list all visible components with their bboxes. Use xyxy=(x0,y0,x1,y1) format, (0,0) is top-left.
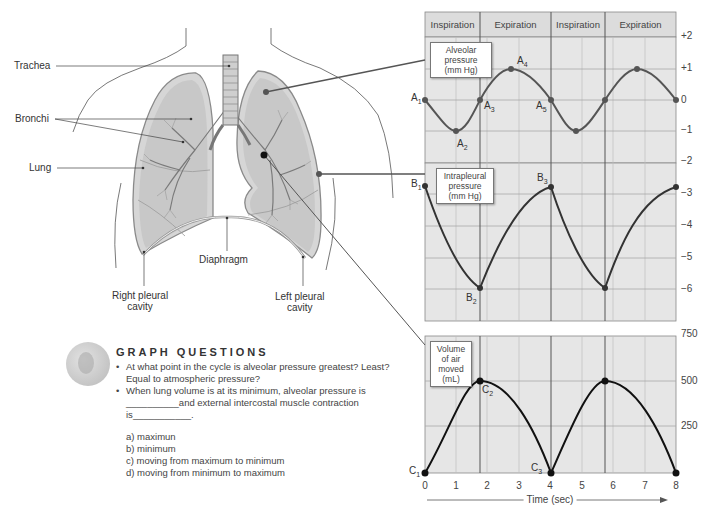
volume-label-line3: moved xyxy=(434,364,468,374)
connector-lines xyxy=(264,60,425,345)
ytick-alveolar-minus1: −1 xyxy=(681,124,692,135)
ytick-volume-750: 750 xyxy=(681,328,698,339)
intrapleural-label-line2: pressure xyxy=(440,181,490,191)
ytick-intrapleural-minus6: −6 xyxy=(681,283,692,294)
xtick-3: 3 xyxy=(512,480,526,491)
ytick-alveolar-0: 0 xyxy=(681,94,687,105)
answer-c: c) moving from maximum to minimum xyxy=(126,455,416,467)
intrapleural-label-line3: (mm Hg) xyxy=(440,191,490,201)
point-label-a3: A3 xyxy=(484,100,495,113)
graph-questions-body: At what point in the cycle is alveolar p… xyxy=(116,361,416,479)
point-label-a5: A5 xyxy=(536,100,547,113)
ytick-intrapleural-minus4: −4 xyxy=(681,219,692,230)
blank-2: ___________ xyxy=(133,409,191,420)
graph-questions-title: GRAPH QUESTIONS xyxy=(116,346,269,358)
alveolar-label-line3: (mm Hg) xyxy=(434,65,488,75)
alveolar-label-line2: pressure xyxy=(434,55,488,65)
answer-a: a) maximun xyxy=(126,431,416,443)
answer-b: b) minimum xyxy=(126,443,416,455)
point-label-a2: A2 xyxy=(457,138,468,151)
x-axis-label: Time (sec) xyxy=(524,494,577,505)
point-label-b1: B1 xyxy=(411,178,422,191)
phase-expiration-1: Expiration xyxy=(480,12,551,37)
point-label-a4: A4 xyxy=(517,55,528,68)
point-label-c2: C2 xyxy=(482,384,493,397)
xtick-8: 8 xyxy=(669,480,683,491)
point-label-b3: B3 xyxy=(537,172,548,185)
point-label-b2: B2 xyxy=(466,292,477,305)
blank-1: __________ xyxy=(126,397,179,408)
xtick-7: 7 xyxy=(638,480,652,491)
ytick-volume-250: 250 xyxy=(681,420,698,431)
ytick-intrapleural-minus3: −3 xyxy=(681,187,692,198)
answer-options: a) maximun b) minimum c) moving from max… xyxy=(116,431,416,479)
answer-d: d) moving from minimum to maximum xyxy=(126,467,416,479)
point-label-a1: A1 xyxy=(411,92,422,105)
question-2: When lung volume is at its minimum, alve… xyxy=(116,385,416,421)
question-1: At what point in the cycle is alveolar p… xyxy=(116,361,416,385)
xtick-0: 0 xyxy=(418,480,432,491)
xtick-2: 2 xyxy=(480,480,494,491)
ytick-alveolar-minus2: −2 xyxy=(681,155,692,166)
volume-label-line2: of air xyxy=(434,354,468,364)
point-label-c3: C3 xyxy=(531,462,542,475)
alveolar-label-line1: Alveolar xyxy=(434,45,488,55)
xtick-1: 1 xyxy=(449,480,463,491)
phase-inspiration-2: Inspiration xyxy=(551,12,605,37)
volume-label-line4: (mL) xyxy=(434,374,468,384)
ytick-alveolar-plus1: +1 xyxy=(681,62,692,73)
phase-inspiration-1: Inspiration xyxy=(425,12,480,37)
ytick-intrapleural-minus5: −5 xyxy=(681,251,692,262)
ytick-volume-500: 500 xyxy=(681,375,698,386)
phase-expiration-2: Expiration xyxy=(605,12,676,37)
alveolar-pressure-label: Alveolar pressure (mm Hg) xyxy=(430,42,492,78)
ytick-alveolar-plus2: +2 xyxy=(681,30,692,41)
intrapleural-label-line1: Intrapleural xyxy=(440,171,490,181)
arrow-head-icon xyxy=(660,497,668,503)
volume-label-line1: Volume xyxy=(434,344,468,354)
intrapleural-pressure-label: Intrapleural pressure (mm Hg) xyxy=(436,168,494,204)
question-q-icon xyxy=(66,342,110,386)
xtick-4: 4 xyxy=(543,480,557,491)
xtick-5: 5 xyxy=(575,480,589,491)
xtick-6: 6 xyxy=(606,480,620,491)
volume-air-moved-label: Volume of air moved (mL) xyxy=(430,341,472,387)
